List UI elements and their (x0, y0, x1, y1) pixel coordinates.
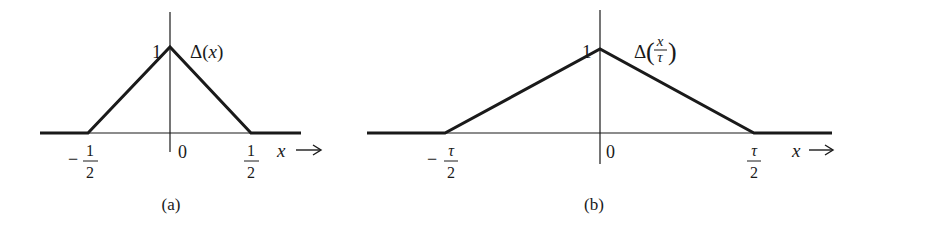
peak-label-b: 1 (582, 41, 592, 62)
tick-denominator: 2 (447, 164, 455, 181)
frac-numerator: x (656, 33, 664, 49)
function-label-a: Δ(x) (190, 41, 223, 63)
arrow-right-icon (809, 145, 833, 155)
caption-b: (b) (584, 195, 604, 214)
right-tick-b: τ 2 (747, 142, 761, 181)
caption-a: (a) (162, 195, 181, 214)
svg-text:): ) (668, 37, 677, 66)
tick-numerator: τ (751, 142, 758, 159)
tick-denominator: 2 (750, 164, 758, 181)
minus-sign: − (68, 149, 78, 169)
frac-denominator: τ (657, 49, 663, 65)
origin-label-b: 0 (606, 142, 615, 162)
svg-text:(: ( (646, 37, 655, 66)
figure: 1 Δ(x) 0 − 1 2 1 2 x (a) 1 (0, 0, 926, 236)
tick-denominator: 2 (247, 164, 255, 181)
tick-numerator: 1 (247, 142, 255, 159)
figure-canvas: 1 Δ(x) 0 − 1 2 1 2 x (a) 1 (0, 0, 926, 236)
panel-a: 1 Δ(x) 0 − 1 2 1 2 x (a) (40, 12, 321, 214)
minus-sign: − (427, 149, 437, 169)
panel-b: 1 Δ ( x τ ) 0 − τ 2 τ 2 x (367, 10, 833, 214)
peak-label-a: 1 (152, 41, 162, 62)
origin-label-a: 0 (178, 142, 187, 162)
x-axis-label-a: x (276, 140, 286, 161)
arrow-right-icon (296, 145, 321, 155)
tick-denominator: 2 (86, 164, 94, 181)
x-axis-label-b: x (791, 140, 801, 161)
left-tick-a: − 1 2 (68, 142, 98, 181)
tick-numerator: τ (448, 142, 455, 159)
tick-numerator: 1 (86, 142, 94, 159)
function-label-b: Δ ( x τ ) (634, 33, 677, 66)
left-tick-b: − τ 2 (427, 142, 458, 181)
delta-symbol: Δ (634, 41, 646, 62)
right-tick-a: 1 2 (244, 142, 259, 181)
